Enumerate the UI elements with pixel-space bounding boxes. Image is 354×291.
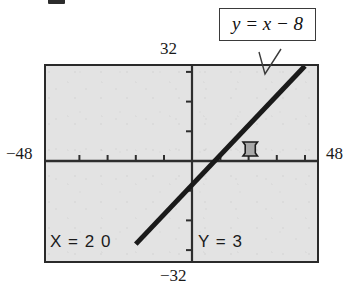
ymax-label: 32: [160, 40, 177, 57]
graphing-calculator-figure: 32 −32 −48 48 X = 2 0 Y = 3 y = x − 8: [0, 0, 354, 291]
trace-cursor: [243, 142, 258, 156]
xmax-label: 48: [326, 145, 343, 162]
xmin-label: −48: [6, 145, 33, 162]
equation-callout: y = x − 8: [219, 8, 316, 41]
cropped-glyph-remnant: [48, 0, 65, 4]
x-coordinate-readout: X = 2 0: [50, 233, 111, 250]
ymin-label: −32: [160, 267, 187, 284]
graphed-line: [136, 66, 305, 244]
equation-text: y = x − 8: [232, 13, 303, 34]
y-coordinate-readout: Y = 3: [198, 233, 243, 250]
